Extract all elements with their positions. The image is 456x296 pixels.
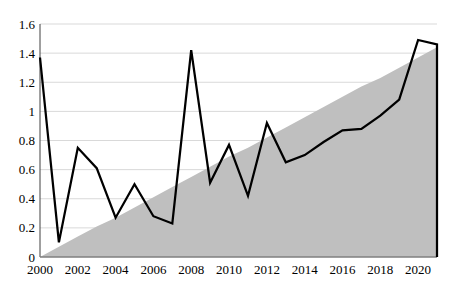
x-tick-label: 2004	[103, 262, 130, 277]
y-tick-label: 0.8	[19, 133, 35, 148]
x-tick-label: 2002	[65, 262, 91, 277]
x-tick-label: 2010	[216, 262, 242, 277]
x-tick-label: 2000	[27, 262, 53, 277]
y-tick-label: 1.2	[19, 75, 35, 90]
x-tick-label: 2006	[140, 262, 167, 277]
y-tick-label: 0.2	[19, 220, 35, 235]
y-tick-label: 0.6	[19, 162, 36, 177]
chart-figure: 00.20.40.60.811.21.41.620002002200420062…	[0, 0, 456, 296]
x-tick-label: 2018	[367, 262, 393, 277]
x-tick-label: 2016	[330, 262, 357, 277]
y-tick-label: 1	[29, 104, 36, 119]
chart-svg: 00.20.40.60.811.21.41.620002002200420062…	[0, 0, 456, 296]
y-tick-label: 1.4	[19, 46, 36, 61]
y-tick-label: 1.6	[19, 17, 36, 32]
x-tick-label: 2020	[405, 262, 431, 277]
x-tick-label: 2014	[292, 262, 319, 277]
x-tick-label: 2012	[254, 262, 280, 277]
y-tick-label: 0.4	[19, 191, 36, 206]
x-tick-label: 2008	[178, 262, 204, 277]
